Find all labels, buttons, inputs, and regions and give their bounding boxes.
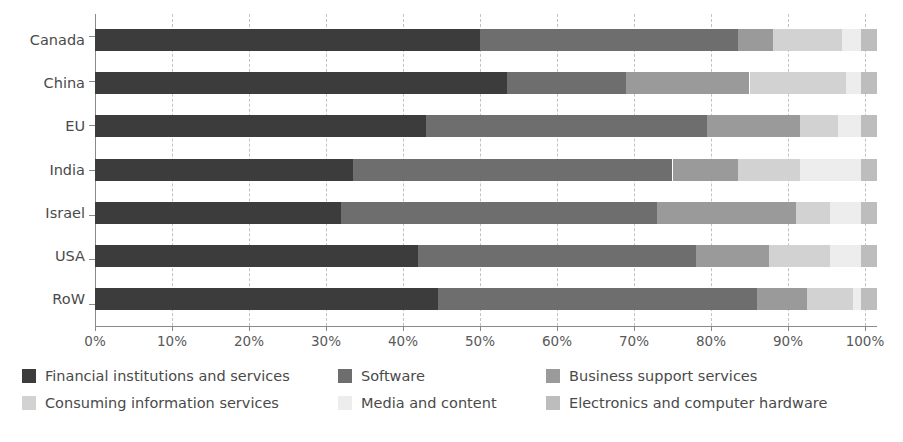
bar-segment[interactable] xyxy=(657,202,796,224)
bar-segment[interactable] xyxy=(480,29,738,51)
legend-item-financial-institutions-and-services[interactable]: Financial institutions and services xyxy=(22,362,290,389)
legend-item-label: Software xyxy=(361,368,425,384)
bar-segment[interactable] xyxy=(95,245,418,267)
bar-segment[interactable] xyxy=(800,159,862,181)
x-tick-label: 70% xyxy=(619,333,649,349)
legend-swatch-icon xyxy=(22,369,36,383)
bar-segment[interactable] xyxy=(95,159,353,181)
x-axis-line xyxy=(95,326,877,327)
bar-segment[interactable] xyxy=(426,115,707,137)
x-tick-label: 60% xyxy=(542,333,572,349)
bar-segment[interactable] xyxy=(438,288,758,310)
x-tick-label: 40% xyxy=(388,333,418,349)
bar-segment[interactable] xyxy=(738,29,773,51)
bar-segment[interactable] xyxy=(757,288,807,310)
legend-item-business-support-services[interactable]: Business support services xyxy=(546,362,757,389)
bar-segment[interactable] xyxy=(507,72,626,94)
bar-segment[interactable] xyxy=(846,72,861,94)
legend-item-label: Media and content xyxy=(361,395,497,411)
x-tick-mark xyxy=(865,326,866,331)
bar-segment[interactable] xyxy=(861,288,876,310)
legend-swatch-icon xyxy=(546,396,560,410)
x-tick-mark xyxy=(95,326,96,331)
x-tick-label: 50% xyxy=(465,333,495,349)
bar-segment[interactable] xyxy=(418,245,695,267)
x-tick-mark xyxy=(326,326,327,331)
x-tick-mark xyxy=(557,326,558,331)
x-tick-mark xyxy=(249,326,250,331)
x-tick-label: 100% xyxy=(846,333,885,349)
bar-row xyxy=(0,288,903,310)
legend-item-electronics-and-computer-hardware[interactable]: Electronics and computer hardware xyxy=(546,389,827,416)
legend-row-1: Financial institutions and services Soft… xyxy=(22,362,882,389)
bar-segment[interactable] xyxy=(853,288,861,310)
bar-segment[interactable] xyxy=(95,202,341,224)
bar-segment[interactable] xyxy=(796,202,831,224)
bar-segment[interactable] xyxy=(738,159,800,181)
bar-segment[interactable] xyxy=(861,29,876,51)
bar-segment[interactable] xyxy=(773,29,842,51)
legend-swatch-icon xyxy=(338,396,352,410)
bar-segment[interactable] xyxy=(830,245,861,267)
bar-row xyxy=(0,72,903,94)
bar-segment[interactable] xyxy=(807,288,853,310)
legend-item-label: Consuming information services xyxy=(45,395,279,411)
bar-row xyxy=(0,202,903,224)
x-tick-label: 0% xyxy=(84,333,105,349)
bar-segment[interactable] xyxy=(626,72,749,94)
x-tick-mark xyxy=(634,326,635,331)
bar-segment[interactable] xyxy=(341,202,657,224)
bar-segment[interactable] xyxy=(838,115,861,137)
x-tick-label: 30% xyxy=(311,333,341,349)
x-tick-label: 90% xyxy=(773,333,803,349)
legend-item-label: Financial institutions and services xyxy=(45,368,290,384)
bar-row xyxy=(0,245,903,267)
x-tick-mark xyxy=(480,326,481,331)
x-tick-label: 80% xyxy=(696,333,726,349)
legend-swatch-icon xyxy=(338,369,352,383)
legend-swatch-icon xyxy=(546,369,560,383)
bar-segment[interactable] xyxy=(95,115,426,137)
bar-row xyxy=(0,29,903,51)
bar-segment[interactable] xyxy=(861,72,876,94)
legend-row-2: Consuming information services Media and… xyxy=(22,389,882,416)
bar-segment[interactable] xyxy=(95,288,438,310)
bar-segment[interactable] xyxy=(95,72,507,94)
bar-row xyxy=(0,115,903,137)
legend-item-software[interactable]: Software xyxy=(338,362,425,389)
bar-segment[interactable] xyxy=(842,29,861,51)
bar-segment[interactable] xyxy=(707,115,799,137)
bar-segment[interactable] xyxy=(830,202,861,224)
bar-segment[interactable] xyxy=(861,202,876,224)
x-tick-mark xyxy=(403,326,404,331)
x-tick-mark xyxy=(788,326,789,331)
chart-legend: Financial institutions and services Soft… xyxy=(22,362,882,416)
bar-segment[interactable] xyxy=(95,29,480,51)
bar-segment[interactable] xyxy=(861,159,876,181)
x-tick-mark xyxy=(711,326,712,331)
bar-segment[interactable] xyxy=(800,115,839,137)
bar-segment[interactable] xyxy=(353,159,673,181)
x-tick-label: 20% xyxy=(234,333,264,349)
legend-swatch-icon xyxy=(22,396,36,410)
bar-segment[interactable] xyxy=(861,245,876,267)
bar-segment[interactable] xyxy=(750,72,846,94)
bar-segment[interactable] xyxy=(769,245,831,267)
bar-segment[interactable] xyxy=(696,245,769,267)
x-tick-label: 10% xyxy=(157,333,187,349)
legend-item-media-and-content[interactable]: Media and content xyxy=(338,389,497,416)
x-tick-mark xyxy=(172,326,173,331)
stacked-bar-chart: 0%10%20%30%40%50%60%70%80%90%100% Canada… xyxy=(0,0,903,442)
legend-item-label: Business support services xyxy=(569,368,757,384)
legend-item-consuming-information-services[interactable]: Consuming information services xyxy=(22,389,279,416)
bar-segment[interactable] xyxy=(673,159,738,181)
bar-segment[interactable] xyxy=(861,115,876,137)
legend-item-label: Electronics and computer hardware xyxy=(569,395,827,411)
bar-row xyxy=(0,159,903,181)
